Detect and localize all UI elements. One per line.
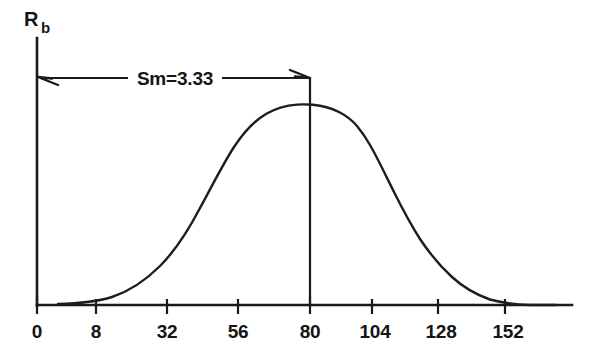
x-tick-label-104: 104 (360, 321, 392, 342)
x-tick-label-56: 56 (228, 321, 249, 342)
distribution-curve (58, 104, 556, 305)
x-tick-label-152: 152 (493, 321, 524, 342)
y-axis-title-subscript: b (41, 19, 50, 36)
dimension-arrow-right-icon (290, 70, 310, 78)
x-tick-label-80: 80 (300, 321, 321, 342)
x-tick-label-128: 128 (426, 321, 457, 342)
x-tick-label-0: 0 (32, 321, 42, 342)
y-axis-title: R (24, 8, 39, 30)
figure-root: 0 8 32 56 80 104 128 152 R b Sm=3.33 (0, 0, 602, 348)
x-tick-label-8: 8 (91, 321, 101, 342)
sm-annotation-label: Sm=3.33 (137, 68, 213, 89)
x-tick-label-32: 32 (157, 321, 178, 342)
bell-curve-chart: 0 8 32 56 80 104 128 152 R b Sm=3.33 (0, 0, 602, 348)
